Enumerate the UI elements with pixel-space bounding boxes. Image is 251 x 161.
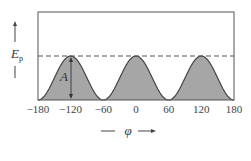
x-axis-label-text: φ <box>124 123 131 138</box>
arrow-up-icon <box>13 21 17 26</box>
amplitude-label: A <box>59 69 68 84</box>
x-axis-label: φ <box>101 123 156 138</box>
arrow-right-icon <box>151 129 156 133</box>
x-tick-label: 120 <box>193 103 210 115</box>
x-tick-label: 0 <box>133 103 139 115</box>
x-tick-label: −60 <box>95 103 113 115</box>
y-axis-label: Ep <box>10 21 23 78</box>
x-tick-label: −120 <box>59 103 82 115</box>
x-tick-label: 180 <box>226 103 243 115</box>
x-tick-label: −180 <box>27 103 50 115</box>
y-axis-label-text: Ep <box>10 46 23 63</box>
x-axis-ticks: −180−120−60060120180 <box>27 103 243 115</box>
x-tick-label: 60 <box>163 103 175 115</box>
torsional-energy-chart: A −180−120−60060120180 φ Ep <box>0 0 251 161</box>
